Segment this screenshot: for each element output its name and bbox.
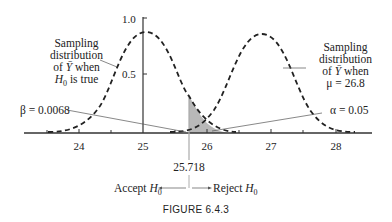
figure-caption: FIGURE 6.4.3 xyxy=(0,204,392,215)
x-tick-28: 28 xyxy=(331,140,342,152)
x-tick-24: 24 xyxy=(74,140,85,152)
arrow-right-icon xyxy=(208,187,212,190)
x-tick-27: 27 xyxy=(266,140,277,152)
reject-label: Reject H0 xyxy=(213,182,258,199)
alpha-label: α = 0.05 xyxy=(330,104,368,116)
left-curve-label: Sampling distribution of Ȳ when H0 is tr… xyxy=(50,37,103,90)
beta-leader-line xyxy=(67,110,186,132)
beta-label: β = 0.0068 xyxy=(20,104,70,116)
right-curve-label: Sampling distribution of Ȳ when μ = 26.8 xyxy=(319,41,372,89)
y-tick-1: 1.0 xyxy=(122,13,136,25)
alpha-leader-line xyxy=(212,113,322,131)
x-tick-26: 26 xyxy=(202,140,213,152)
y-tick-05: 0.5 xyxy=(122,68,136,80)
x-tick-25: 25 xyxy=(138,140,149,152)
critical-value-label: 25.718 xyxy=(173,161,205,173)
accept-label: Accept H0 xyxy=(114,182,162,199)
